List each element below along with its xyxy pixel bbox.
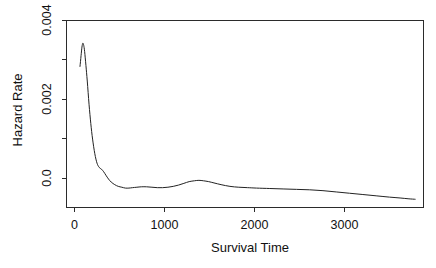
y-tick-label-0.004: 0.004 bbox=[40, 4, 54, 35]
y-axis-title: Hazard Rate bbox=[10, 74, 25, 147]
y-tick-label-0.002: 0.002 bbox=[40, 83, 54, 114]
y-tick-label-0.0: 0.0 bbox=[40, 169, 54, 186]
hazard-rate-chart-figure: 0.004 0.002 0.0 0 1000 2000 3000 Hazard … bbox=[0, 0, 436, 268]
x-tick-label-0: 0 bbox=[71, 218, 78, 232]
plot-frame bbox=[67, 21, 424, 208]
hazard-rate-curve bbox=[80, 43, 415, 199]
plot-canvas: 0.004 0.002 0.0 0 1000 2000 3000 Hazard … bbox=[0, 0, 436, 268]
x-axis-ticks bbox=[75, 208, 345, 213]
x-tick-label-1000: 1000 bbox=[151, 218, 179, 232]
x-tick-label-3000: 3000 bbox=[331, 218, 359, 232]
y-axis-ticks bbox=[62, 21, 67, 179]
x-axis-title: Survival Time bbox=[211, 240, 289, 255]
x-tick-label-2000: 2000 bbox=[241, 218, 269, 232]
